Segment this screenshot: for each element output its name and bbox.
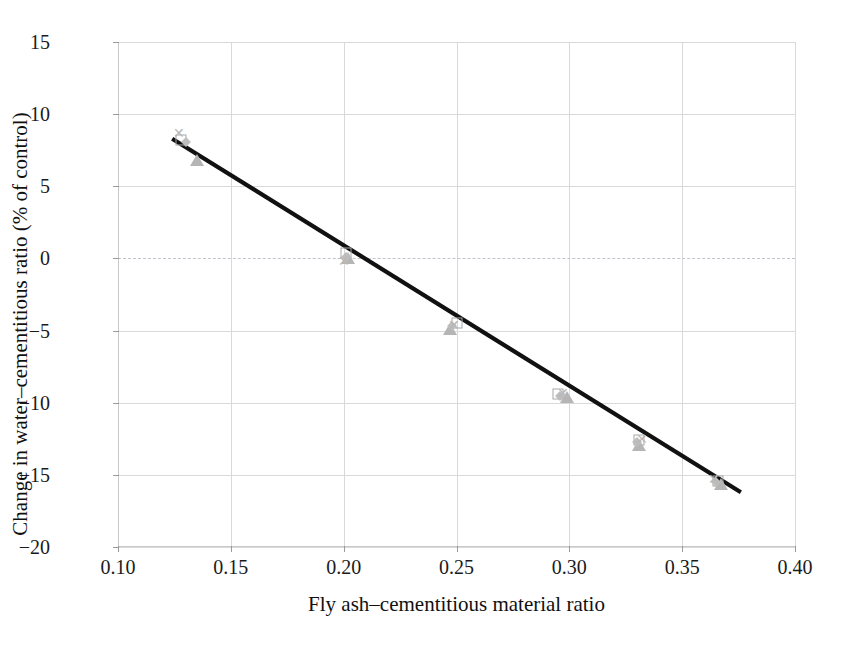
data-point-cross-icon: ✕ bbox=[708, 472, 720, 486]
x-tick-label: 0.25 bbox=[417, 556, 497, 579]
x-tick-label: 0.20 bbox=[304, 556, 384, 579]
trendline-path bbox=[172, 139, 741, 493]
y-tick-label: 15 bbox=[0, 31, 50, 54]
data-point-cross-icon: ✕ bbox=[448, 318, 460, 332]
gridline-vertical bbox=[795, 42, 796, 547]
y-tick-label: 0 bbox=[0, 247, 50, 270]
x-tick-label: 0.15 bbox=[191, 556, 271, 579]
x-tick-label: 0.30 bbox=[529, 556, 609, 579]
x-tick-label: 0.40 bbox=[755, 556, 835, 579]
data-point-cross-icon: ✕ bbox=[636, 432, 648, 446]
y-tick-label: 10 bbox=[0, 103, 50, 126]
x-tick-mark bbox=[795, 546, 796, 552]
chart-figure: Change in water–cementitious ratio (% of… bbox=[0, 0, 858, 648]
y-tick-label: −20 bbox=[0, 536, 50, 559]
x-tick-label: 0.10 bbox=[78, 556, 158, 579]
x-axis-title: Fly ash–cementitious material ratio bbox=[118, 592, 795, 617]
data-point-triangle-icon bbox=[190, 154, 204, 166]
x-axis-title-text: Fly ash–cementitious material ratio bbox=[308, 592, 605, 616]
data-point-cross-icon: ✕ bbox=[173, 126, 185, 140]
x-tick-label: 0.35 bbox=[642, 556, 722, 579]
y-tick-label: −15 bbox=[0, 463, 50, 486]
y-tick-label: −10 bbox=[0, 391, 50, 414]
plot-area: ✕✕✕✕✕✕ bbox=[118, 42, 795, 547]
trendline bbox=[118, 42, 795, 547]
y-tick-label: −5 bbox=[0, 319, 50, 342]
data-point-cross-icon: ✕ bbox=[557, 386, 569, 400]
data-point-cross-icon: ✕ bbox=[338, 254, 350, 268]
y-tick-label: 5 bbox=[0, 175, 50, 198]
